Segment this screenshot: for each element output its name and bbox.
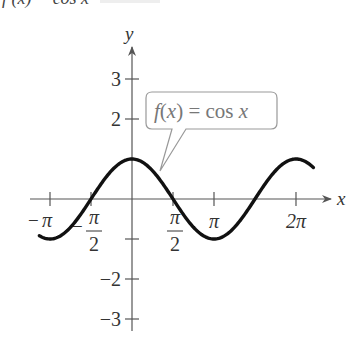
y-tick-label: 2 [111,108,121,130]
y-tick-label: −2 [100,268,121,290]
callout-label: f(x) = cos x [154,99,249,123]
svg-text:−: − [28,210,39,231]
function-callout: f(x) = cos x [146,92,277,171]
y-axis-label: y [123,23,134,44]
x-axis-label: x [336,188,346,209]
chart-figure: f (x) = cos x xy −π−π2π2π2π32−2−3 f(x) =… [0,0,363,351]
svg-text:π: π [42,209,53,231]
y-tick-label: 3 [111,68,121,90]
x-tick-label: −π [28,209,53,231]
x-tick-label: 2π [286,210,307,232]
x-tick-label: −π2 [72,206,102,255]
y-tick-label: −3 [100,308,121,330]
cosine-plot: f (x) = cos x xy −π−π2π2π2π32−2−3 f(x) =… [0,0,363,351]
svg-text:2: 2 [170,233,180,255]
axes: xy [30,23,346,331]
svg-text:π: π [89,206,100,228]
clipped-header-text: f (x) = cos x [2,0,160,9]
svg-text:2π: 2π [286,210,307,232]
svg-text:π: π [209,210,220,232]
header-fragment-text: f (x) = cos x [2,0,89,9]
svg-text:2: 2 [89,233,99,255]
x-tick-label: π [209,210,220,232]
